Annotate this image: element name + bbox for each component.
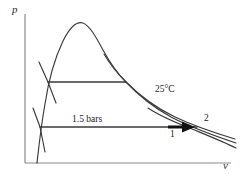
isotherm-label: 25°C	[155, 85, 175, 95]
curves-group	[33, 23, 236, 163]
y-axis-label: p	[12, 4, 18, 15]
pv-diagram-figure: p v 25°C 1.5 bars 1 2	[0, 0, 240, 174]
state-point-1-label: 1	[170, 130, 175, 140]
isobar-label: 1.5 bars	[72, 115, 102, 125]
x-axis-label: v	[223, 160, 228, 171]
state-point-2-label: 2	[204, 114, 209, 124]
pv-diagram-canvas	[0, 0, 240, 174]
saturation-dome-curve	[37, 23, 126, 163]
axes-group	[25, 14, 231, 163]
